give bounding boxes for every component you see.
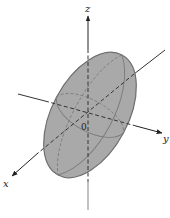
y-axis-label: y bbox=[162, 133, 169, 144]
z-axis-label: z bbox=[84, 3, 91, 14]
x-axis-negative-segment bbox=[134, 50, 165, 74]
y-axis-negative-segment bbox=[18, 94, 45, 101]
x-axis-label: x bbox=[3, 178, 9, 189]
origin-label: 0 bbox=[81, 122, 87, 132]
diagram-canvas: z y x 0 bbox=[0, 0, 170, 218]
x-axis-positive bbox=[12, 153, 38, 176]
y-axis-positive bbox=[136, 126, 162, 133]
ellipsoid-surface bbox=[25, 37, 156, 193]
ellipsoid-diagram: z y x 0 bbox=[0, 0, 170, 218]
